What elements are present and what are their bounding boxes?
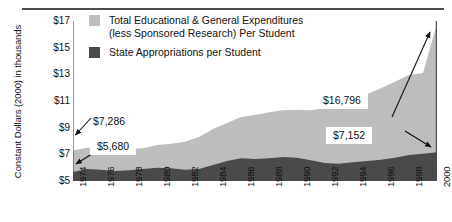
- y-axis-tick-label: $15: [36, 43, 70, 53]
- legend-label-total: Total Educational & General Expenditures…: [109, 14, 303, 39]
- x-axis-tick-label: 1988: [273, 167, 284, 187]
- y-axis-tick-label: $11: [36, 96, 70, 106]
- annotation-start-state: $5,680: [90, 138, 136, 155]
- dark-gray-swatch-icon: [89, 47, 100, 58]
- y-axis-tick-label: $17: [36, 16, 70, 26]
- x-axis-tick-label: 1986: [245, 167, 256, 187]
- x-axis-tick-label: 1994: [357, 167, 368, 187]
- x-axis-tick-label: 1990: [301, 167, 312, 187]
- x-axis-tick-label: 2000: [441, 167, 452, 187]
- legend-item-state: State Appropriations per Student: [89, 46, 303, 59]
- legend-label-state: State Appropriations per Student: [109, 46, 261, 59]
- x-axis-tick-label: 1998: [413, 167, 424, 187]
- y-axis-title: Constant Dollars (2000) in thousands: [12, 14, 23, 190]
- header-divider: [22, 8, 444, 10]
- x-axis-tick-label: 1992: [329, 167, 340, 187]
- y-axis-tick-label: $13: [36, 69, 70, 79]
- x-axis-tick-label: 1984: [217, 167, 228, 187]
- y-axis-tick-label: $9: [36, 123, 70, 133]
- annotation-end-total: $16,796: [316, 92, 368, 109]
- x-axis-tick-label: 1996: [385, 167, 396, 187]
- annotation-end-state: $7,152: [326, 127, 372, 144]
- x-axis-tick-label: 1980: [161, 167, 172, 187]
- x-axis-tick-label: 1976: [105, 167, 116, 187]
- legend-item-total: Total Educational & General Expenditures…: [89, 14, 303, 39]
- x-axis-tick-label: 1974: [77, 167, 88, 187]
- y-axis-tick-label: $5: [36, 176, 70, 186]
- chart-legend: Total Educational & General Expenditures…: [89, 14, 303, 66]
- light-gray-swatch-icon: [89, 15, 100, 26]
- y-axis-tick-labels: $5$7$9$11$13$15$17: [36, 0, 70, 222]
- y-axis-tick-label: $7: [36, 149, 70, 159]
- x-axis-tick-labels: 1974197619781980198219841986198819901992…: [73, 181, 437, 222]
- annotation-start-total: $7,286: [86, 113, 132, 130]
- x-axis-tick-label: 1978: [133, 167, 144, 187]
- x-axis-tick-label: 1982: [189, 167, 200, 187]
